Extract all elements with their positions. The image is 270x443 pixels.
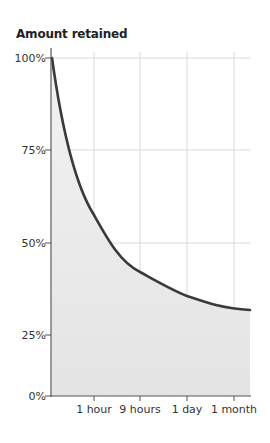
- y-tick-label-0: 0%: [29, 390, 46, 403]
- y-tick-label-75: 75%: [22, 144, 46, 157]
- y-tick-label-50: 50%: [22, 237, 46, 250]
- x-tick-label-1-hour: 1 hour: [76, 403, 112, 416]
- y-ticks: [45, 58, 51, 396]
- chart-plot: [0, 0, 270, 443]
- x-tick-label-9-hours: 9 hours: [119, 403, 160, 416]
- x-tick-label-1-month: 1 month: [211, 403, 257, 416]
- x-tick-label-1-day: 1 day: [172, 403, 203, 416]
- y-tick-label-100: 100%: [15, 52, 46, 65]
- y-tick-label-25: 25%: [22, 329, 46, 342]
- retention-area: [52, 58, 250, 396]
- x-ticks: [94, 396, 234, 401]
